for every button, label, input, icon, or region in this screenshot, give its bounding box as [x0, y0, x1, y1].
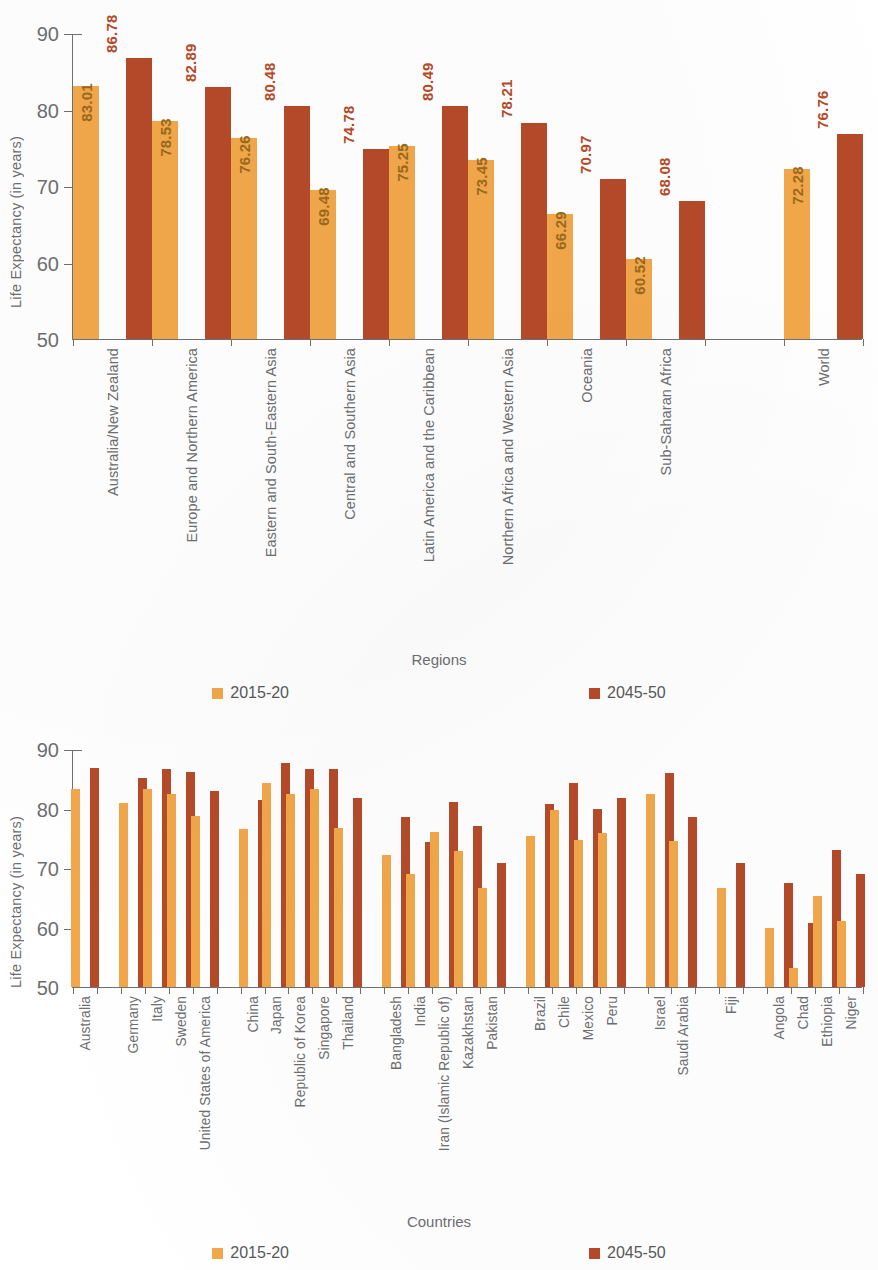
bar: 82.89 [205, 87, 231, 339]
x-axis-tick [336, 987, 337, 994]
x-axis-tick [193, 987, 194, 994]
bar [736, 863, 745, 987]
x-axis-tick [528, 987, 529, 994]
bar [813, 896, 822, 987]
x-axis-tick [231, 339, 232, 346]
y-axis-tick [64, 34, 73, 35]
x-axis-tick [145, 987, 146, 994]
bar [526, 836, 535, 987]
bar [717, 888, 726, 987]
x-axis-category-label: Italy [149, 996, 164, 1022]
x-axis-tick [152, 339, 153, 346]
x-axis-tick [863, 987, 864, 994]
x-axis-tick [504, 987, 505, 994]
x-axis-category-label: Central and Southern Asia [342, 348, 358, 520]
x-axis-category-label: Japan [269, 996, 284, 1034]
y-axis-tick-label: 50 [37, 329, 59, 352]
y-axis-tick-label: 90 [37, 23, 59, 46]
y-axis-tick-label: 90 [37, 739, 59, 762]
legend-item-2045-50: 2045-50 [589, 1244, 666, 1262]
bar-value-label: 82.89 [182, 44, 199, 83]
bar [262, 783, 271, 987]
bar [119, 803, 128, 987]
bar [286, 794, 295, 987]
regions-chart: Life Expectancy (in years) 506070809083.… [0, 0, 878, 720]
x-axis-category-label: Pakistan [484, 996, 499, 1050]
bar-value-label: 73.45 [473, 157, 490, 196]
x-axis-tick [767, 987, 768, 994]
bar: 80.48 [284, 106, 310, 339]
x-axis-tick [815, 987, 816, 994]
bar-value-label: 70.97 [577, 135, 594, 174]
legend-label-2015-20: 2015-20 [230, 1244, 289, 1262]
bar-value-label: 76.76 [814, 91, 831, 130]
bar [239, 829, 248, 987]
legend-regions: 2015-20 2045-50 [0, 684, 878, 702]
bar: 76.26 [231, 138, 257, 339]
x-axis-category-label: Australia/New Zealand [105, 348, 121, 496]
x-axis-label-regions: Regions [0, 651, 878, 668]
x-axis-category-label: Iran (Islamic Republic of) [437, 996, 452, 1151]
x-axis-tick [432, 987, 433, 994]
y-axis-tick-label: 70 [37, 858, 59, 881]
bar-value-label: 75.25 [394, 143, 411, 182]
x-axis-category-label: Niger [844, 996, 859, 1029]
x-axis-tick [217, 987, 218, 994]
x-axis-tick [408, 987, 409, 994]
bar-value-label: 80.48 [261, 62, 278, 101]
bar-value-label: 78.53 [157, 118, 174, 157]
y-axis-tick [64, 187, 73, 188]
bar: 76.76 [837, 134, 863, 339]
figure-page: Life Expectancy (in years) 506070809083.… [0, 0, 878, 1270]
legend-countries: 2015-20 2045-50 [0, 1244, 878, 1262]
bar [90, 768, 99, 987]
bar-value-label: 69.48 [315, 187, 332, 226]
x-axis-tick [626, 339, 627, 346]
x-axis-tick [312, 987, 313, 994]
bar-value-label: 76.26 [236, 135, 253, 174]
x-axis-category-label: Saudi Arabia [676, 996, 691, 1075]
bar: 83.01 [73, 86, 99, 339]
x-axis-tick [552, 987, 553, 994]
legend-swatch-2045-50 [589, 688, 600, 699]
x-axis-tick [671, 987, 672, 994]
plot-area-countries: 5060708090AustraliaGermanyItalySwedenUni… [72, 750, 862, 988]
x-axis-tick [624, 987, 625, 994]
x-axis-category-label: Sub-Saharan Africa [658, 348, 674, 476]
y-axis-label-regions: Life Expectancy (in years) [8, 68, 24, 308]
bar [478, 888, 487, 987]
x-axis-tick [73, 987, 74, 994]
y-axis-tick [64, 750, 73, 751]
bar: 86.78 [126, 58, 152, 339]
x-axis-category-label: Bangladesh [389, 996, 404, 1070]
x-axis-tick [456, 987, 457, 994]
x-axis-category-label: Brazil [532, 996, 547, 1031]
x-axis-tick [547, 339, 548, 346]
legend-label-2015-20: 2015-20 [230, 684, 289, 702]
bar: 80.49 [442, 106, 468, 339]
y-axis-label-countries: Life Expectancy (in years) [8, 748, 24, 988]
y-axis-tick [64, 264, 73, 265]
bar-value-label: 86.78 [103, 14, 120, 53]
bar-value-label: 66.29 [552, 212, 569, 251]
bar [669, 841, 678, 987]
x-axis-category-label: China [245, 996, 260, 1033]
x-axis-tick [265, 987, 266, 994]
y-axis-top-cap [73, 750, 82, 751]
bar [574, 840, 583, 987]
legend-swatch-2045-50 [589, 1248, 600, 1259]
bar [765, 928, 774, 988]
x-axis-tick [695, 987, 696, 994]
x-axis-tick [576, 987, 577, 994]
x-axis-category-label: Eastern and South-Eastern Asia [263, 348, 279, 557]
bar-value-label: 78.21 [498, 80, 515, 119]
x-axis-tick [310, 339, 311, 346]
x-axis-category-label: Kazakhstan [461, 996, 476, 1069]
bar [334, 828, 343, 987]
x-axis-category-label: Republic of Korea [293, 996, 308, 1107]
x-axis-category-label: Singapore [317, 996, 332, 1060]
x-axis-tick [360, 987, 361, 994]
bar: 78.53 [152, 121, 178, 339]
bar [382, 855, 391, 987]
x-axis-category-label: Sweden [173, 996, 188, 1046]
